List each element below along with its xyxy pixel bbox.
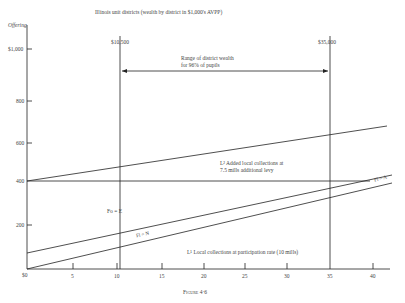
chart-title: Illinois unit districts (wealth by distr… bbox=[95, 9, 222, 15]
figure-caption: Figure 4·6 bbox=[183, 289, 207, 295]
x-tick-15: 15 bbox=[159, 273, 165, 279]
x-tick-5: 5 bbox=[71, 273, 74, 279]
l2-annotation-1: L² Added local collections at bbox=[220, 160, 283, 166]
chart-plot bbox=[0, 0, 405, 303]
y-tick-1000: $1,000 bbox=[8, 46, 23, 52]
x-tick-35: 35 bbox=[327, 273, 333, 279]
marker-label-35000: $35,000 bbox=[318, 39, 336, 45]
x-tick-20: 20 bbox=[201, 273, 207, 279]
l2-annotation-2: 7.5 mills additional levy bbox=[220, 167, 273, 173]
range-label-2: for 96% of pupils bbox=[181, 62, 220, 68]
y-tick-200: 200 bbox=[16, 222, 24, 228]
fl-a-line bbox=[27, 183, 392, 269]
x-tick-30: 30 bbox=[284, 273, 290, 279]
y-axis-label: Offering bbox=[8, 22, 27, 28]
fo-e-label: Fo = E bbox=[107, 208, 122, 214]
x-tick-10: 10 bbox=[114, 273, 120, 279]
l2-line bbox=[27, 126, 387, 181]
x-tick-25: 25 bbox=[242, 273, 248, 279]
y-tick-400: 400 bbox=[16, 178, 24, 184]
x-tick-0: $0 bbox=[22, 272, 28, 278]
x-tick-40: 40 bbox=[370, 273, 376, 279]
y-tick-600: 600 bbox=[16, 140, 24, 146]
l1-annotation: L¹ Local collections at participation ra… bbox=[187, 249, 298, 255]
fl-n-line bbox=[27, 175, 392, 253]
y-tick-800: 800 bbox=[16, 98, 24, 104]
range-label-1: Range of district wealth bbox=[181, 55, 234, 61]
marker-label-10500: $10,500 bbox=[111, 39, 129, 45]
